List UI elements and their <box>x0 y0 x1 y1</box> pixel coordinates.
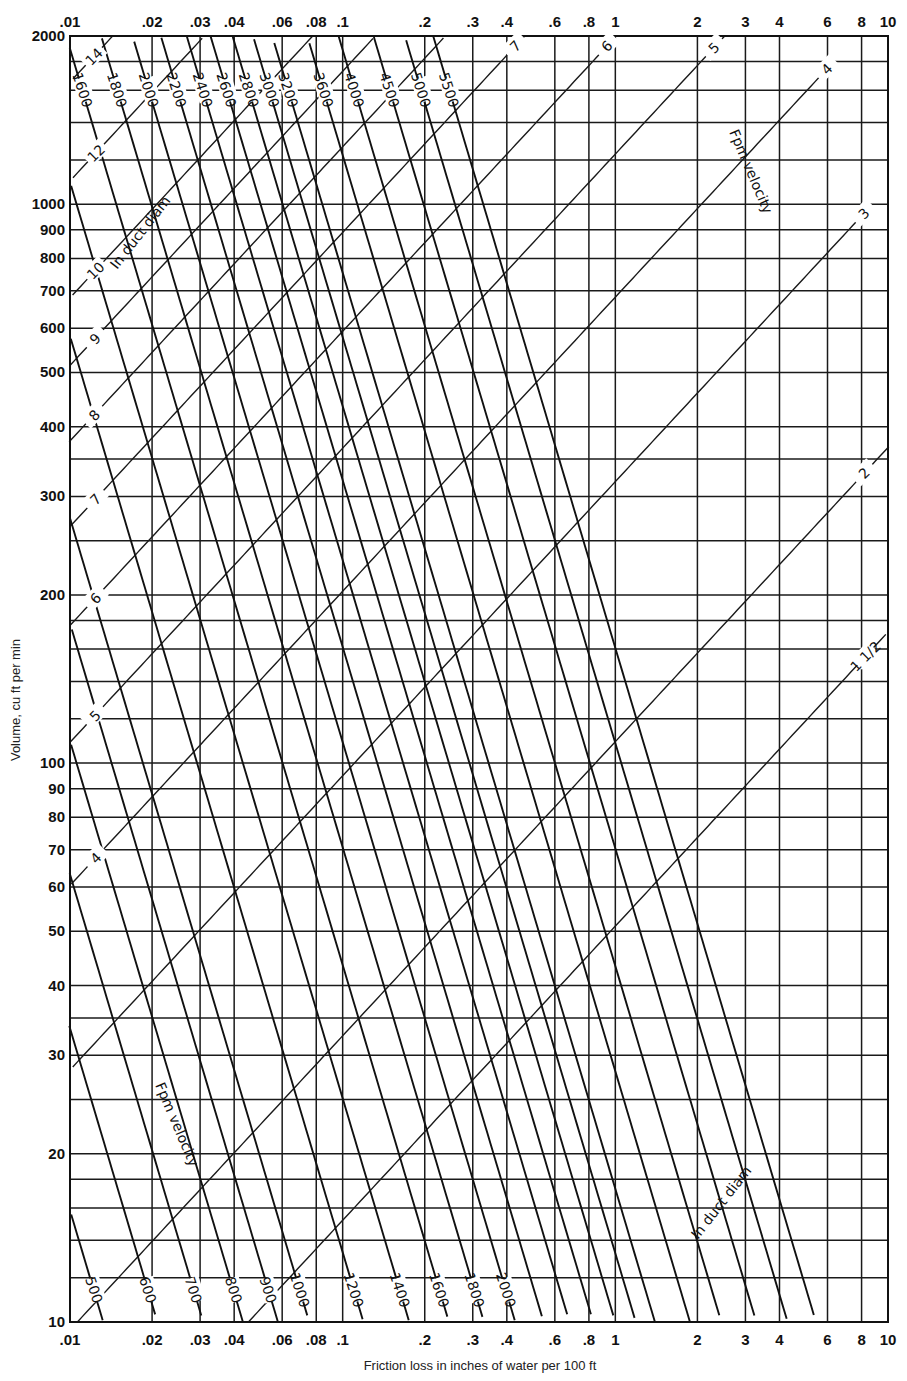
y-tick-label: 70 <box>48 841 65 858</box>
curve-value-label: 500 <box>82 1275 105 1305</box>
x-tick-label: 4 <box>775 13 784 30</box>
diameter-line <box>249 634 886 1321</box>
curve-value-label: 1600 <box>426 1271 452 1310</box>
y-tick-label: 900 <box>40 221 65 238</box>
y-tick-label: 30 <box>48 1046 65 1063</box>
x-tick-label: 8 <box>857 13 865 30</box>
curve-value-label: 1000 <box>287 1271 313 1310</box>
x-tick-label: 6 <box>823 13 831 30</box>
x-tick-label: .1 <box>336 1331 349 1348</box>
velocity-line <box>72 630 278 1322</box>
x-tick-label: 4 <box>775 1331 784 1348</box>
velocity-line <box>71 186 409 1320</box>
curve-value-label: 800 <box>222 1275 245 1305</box>
curve-value-label: 2000 <box>493 1271 519 1310</box>
x-tick-label: .1 <box>336 13 349 30</box>
velocity-line <box>233 37 613 1316</box>
velocity-annotation-top: Fpm velocity <box>726 127 776 216</box>
friction-loss-chart: .01.02.03.04.06.08.1.2.3.4.6.812346810 .… <box>0 0 907 1381</box>
y-tick-label: 400 <box>40 418 65 435</box>
velocity-line <box>339 37 719 1316</box>
plot-frame <box>70 36 888 1322</box>
y-tick-label: 300 <box>40 487 65 504</box>
x-tick-label: 3 <box>741 13 749 30</box>
x-tick-label: .2 <box>418 1331 431 1348</box>
curve-value-label: 900 <box>256 1275 279 1305</box>
x-tick-label: .2 <box>418 13 431 30</box>
x-tick-label: 2 <box>693 1331 701 1348</box>
y-axis-title: Volume, cu ft per min <box>8 639 23 761</box>
x-tick-label: 10 <box>880 13 897 30</box>
x-tick-label: 1 <box>611 13 619 30</box>
y-tick-labels: 1020304050607080901002003004005006007008… <box>32 27 65 1330</box>
x-axis-title: Friction loss in inches of water per 100… <box>364 1358 597 1373</box>
y-tick-label: 80 <box>48 808 65 825</box>
curve-value-label: 1800 <box>461 1271 487 1310</box>
y-tick-label: 40 <box>48 977 65 994</box>
y-tick-label: 500 <box>40 363 65 380</box>
curve-labels: 1 1/223445566778910121450060070080090010… <box>70 31 884 1309</box>
x-tick-labels-top: .01.02.03.04.06.08.1.2.3.4.6.812346810 <box>60 13 897 30</box>
velocity-line <box>254 39 634 1318</box>
grid <box>70 36 888 1322</box>
x-tick-label: .3 <box>467 13 480 30</box>
y-tick-label: 700 <box>40 282 65 299</box>
x-tick-label: .03 <box>190 13 211 30</box>
x-tick-label: 3 <box>741 1331 749 1348</box>
velocity-line <box>71 1214 102 1320</box>
velocity-line <box>433 36 813 1315</box>
y-tick-label: 100 <box>40 754 65 771</box>
x-tick-label: 2 <box>693 13 701 30</box>
x-tick-label: .02 <box>142 13 163 30</box>
x-tick-label: .4 <box>501 1331 514 1348</box>
y-tick-label: 90 <box>48 780 65 797</box>
velocity-line <box>69 1026 155 1314</box>
y-tick-label: 20 <box>48 1145 65 1162</box>
x-tick-labels-bottom: .01.02.03.04.06.08.1.2.3.4.6.812346810 <box>60 1331 897 1348</box>
diameter-line <box>70 36 725 743</box>
x-tick-label: .04 <box>224 1331 246 1348</box>
x-tick-label: .4 <box>501 13 514 30</box>
x-tick-label: .02 <box>142 1331 163 1348</box>
curve-value-label: 600 <box>136 1275 159 1305</box>
curve-value-label: 1200 <box>341 1271 367 1310</box>
y-tick-label: 2000 <box>32 27 65 44</box>
y-tick-label: 600 <box>40 319 65 336</box>
x-tick-label: .03 <box>190 1331 211 1348</box>
y-tick-label: 800 <box>40 249 65 266</box>
y-tick-label: 10 <box>48 1313 65 1330</box>
velocity-line <box>70 517 307 1315</box>
x-tick-label: .06 <box>272 13 293 30</box>
x-tick-label: 1 <box>611 1331 619 1348</box>
y-tick-label: 200 <box>40 586 65 603</box>
velocity-annotation-bottom: Fpm velocity <box>152 1080 202 1169</box>
y-tick-label: 50 <box>48 922 65 939</box>
x-tick-label: .8 <box>583 13 596 30</box>
velocity-line <box>187 36 567 1315</box>
y-tick-label: 60 <box>48 878 65 895</box>
x-tick-label: 6 <box>823 1331 831 1348</box>
y-tick-label: 1000 <box>32 195 65 212</box>
velocity-line <box>210 36 590 1315</box>
x-tick-label: .08 <box>306 1331 327 1348</box>
x-tick-label: .6 <box>549 1331 562 1348</box>
velocity-line <box>309 43 689 1322</box>
curve-value-label: 700 <box>182 1275 205 1305</box>
x-tick-label: 8 <box>857 1331 865 1348</box>
curve-value-label: 1400 <box>387 1271 413 1310</box>
x-tick-label: .01 <box>60 1331 81 1348</box>
x-tick-label: .08 <box>306 13 327 30</box>
x-tick-label: .8 <box>583 1331 596 1348</box>
diameter-lines <box>69 35 889 1321</box>
x-tick-label: .6 <box>549 13 562 30</box>
x-tick-label: .06 <box>272 1331 293 1348</box>
x-tick-label: .04 <box>224 13 246 30</box>
x-tick-label: .3 <box>467 1331 480 1348</box>
x-tick-label: 10 <box>880 1331 897 1348</box>
